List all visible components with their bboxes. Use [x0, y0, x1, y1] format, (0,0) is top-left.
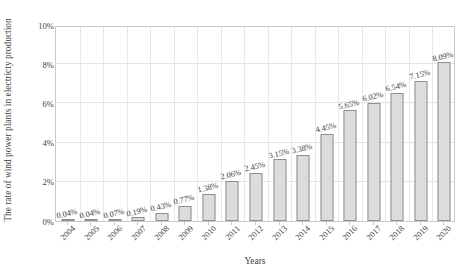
x-axis-tick-label-text: 2016: [341, 224, 359, 242]
x-axis-tickmark: [231, 222, 232, 225]
bar-slot: 2.06%: [221, 27, 245, 221]
y-axis-tick-labels: 0%2%4%6%8%10%: [26, 0, 54, 276]
x-axis-title: Years: [55, 256, 455, 266]
bar: [179, 206, 192, 221]
x-axis-tick-label-text: 2019: [412, 224, 430, 242]
x-axis-tickmark: [326, 222, 327, 225]
bar: [391, 93, 404, 221]
x-axis-tickmark: [279, 222, 280, 225]
y-axis-tick-label: 2%: [28, 178, 54, 187]
bar: [155, 213, 168, 221]
bar-slot: 6.02%: [362, 27, 386, 221]
x-axis-tick-label-text: 2007: [129, 224, 147, 242]
x-axis-tick-label-text: 2018: [388, 224, 406, 242]
bar-slot: 6.54%: [385, 27, 409, 221]
bar-value-label: 3.15%: [267, 147, 290, 160]
bar-slot: 0.77%: [174, 27, 198, 221]
y-axis-tick-label: 8%: [28, 61, 54, 70]
x-axis-tick-label-text: 2009: [177, 224, 195, 242]
x-axis-tickmark: [137, 222, 138, 225]
bar: [202, 194, 215, 221]
x-axis-tickmark: [184, 222, 185, 225]
bar-slot: 3.38%: [291, 27, 315, 221]
bar-slot: 1.38%: [197, 27, 221, 221]
x-axis-tickmark: [302, 222, 303, 225]
bar-slot: 0.07%: [103, 27, 127, 221]
bar-slot: 0.43%: [150, 27, 174, 221]
x-axis-tickmark: [255, 222, 256, 225]
bar-slot: 0.04%: [56, 27, 80, 221]
plot-area: 0.04%0.04%0.07%0.19%0.43%0.77%1.38%2.06%…: [55, 26, 455, 222]
x-axis-tickmark: [208, 222, 209, 225]
y-axis-tick-label: 10%: [28, 22, 54, 31]
y-axis-title: The rate of wind power plants in electri…: [0, 0, 16, 240]
x-axis-tick-label-text: 2004: [59, 224, 77, 242]
bar-slot: 5.65%: [338, 27, 362, 221]
x-axis-tick-label-text: 2008: [153, 224, 171, 242]
y-axis-tick-label: 0%: [28, 218, 54, 227]
bar: [297, 155, 310, 221]
bar: [367, 103, 380, 221]
x-axis-tick-label-text: 2006: [106, 224, 124, 242]
bar: [273, 159, 286, 221]
x-axis-tick-label-text: 2010: [200, 224, 218, 242]
bar-slot: 2.45%: [244, 27, 268, 221]
bar-slot: 3.15%: [268, 27, 292, 221]
x-axis-tickmark: [373, 222, 374, 225]
bar: [344, 110, 357, 221]
bar-slot: 7.15%: [409, 27, 433, 221]
x-axis-tick-label-text: 2014: [294, 224, 312, 242]
x-axis-tickmark: [443, 222, 444, 225]
bar: [132, 217, 145, 221]
x-axis-tick-label-text: 2012: [247, 224, 265, 242]
x-axis-tickmark: [349, 222, 350, 225]
bar: [249, 173, 262, 221]
x-axis-tick-label-text: 2015: [318, 224, 336, 242]
x-axis-tickmark: [67, 222, 68, 225]
bar: [85, 219, 98, 221]
y-axis-tick-label: 6%: [28, 100, 54, 109]
y-axis-title-text: The rate of wind power plants in electri…: [3, 18, 13, 222]
bar: [226, 181, 239, 221]
x-axis-tickmark: [396, 222, 397, 225]
bar: [320, 134, 333, 221]
bar-slot: 4.45%: [315, 27, 339, 221]
x-axis-tick-label-text: 2011: [224, 224, 242, 242]
bar-slot: 8.09%: [432, 27, 456, 221]
x-axis-tickmark: [161, 222, 162, 225]
x-axis-tick-label-text: 2013: [271, 224, 289, 242]
x-axis-tickmark: [114, 222, 115, 225]
bar-series: 0.04%0.04%0.07%0.19%0.43%0.77%1.38%2.06%…: [56, 27, 454, 221]
x-axis-tickmark: [420, 222, 421, 225]
x-axis-tick-label-text: 2017: [365, 224, 383, 242]
bar: [414, 81, 427, 221]
bar: [438, 62, 451, 221]
x-axis-tick-label-text: 2005: [82, 224, 100, 242]
y-axis-tick-label: 4%: [28, 139, 54, 148]
bar-slot: 0.19%: [127, 27, 151, 221]
bar-value-label: 5.65%: [338, 98, 361, 111]
bar-slot: 0.04%: [80, 27, 104, 221]
x-axis-tickmark: [90, 222, 91, 225]
bar-chart-figure: The rate of wind power plants in electri…: [0, 0, 468, 276]
x-axis-tick-label-text: 2020: [435, 224, 453, 242]
